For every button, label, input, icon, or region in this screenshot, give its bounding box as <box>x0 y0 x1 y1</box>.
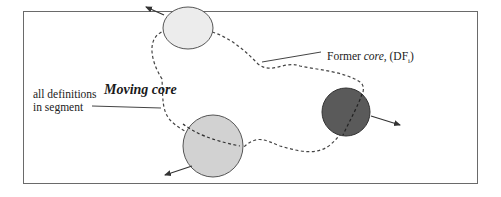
former-core-leader-line <box>262 52 321 62</box>
all-definitions-text: all definitions <box>33 88 97 101</box>
moving-core-diagram: all definitions in segment Moving core F… <box>0 0 501 197</box>
moving-core-label: Moving core <box>104 82 177 98</box>
segment-circle-dark <box>322 88 370 136</box>
arrow-up-left-icon <box>146 7 164 15</box>
close-paren: ) <box>410 50 414 62</box>
all-definitions-leader-line <box>92 106 161 108</box>
core-text: core, <box>364 50 387 62</box>
all-definitions-label: all definitions in segment <box>33 88 97 114</box>
df-text: (DF <box>387 50 408 62</box>
segment-circle-large <box>183 115 243 177</box>
in-segment-text: in segment <box>33 101 97 114</box>
arrow-right-icon <box>371 116 400 125</box>
former-position-circle <box>163 7 213 49</box>
arrow-down-left-icon <box>165 166 192 175</box>
former-core-label: Former core, (DFi) <box>327 50 414 65</box>
former-text: Former <box>327 50 364 62</box>
